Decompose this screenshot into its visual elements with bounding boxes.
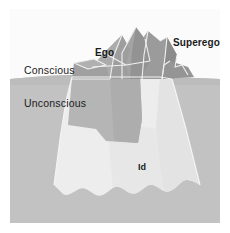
label-unconscious: Unconscious [24, 97, 86, 109]
label-superego: Superego [173, 37, 220, 48]
label-id: Id [138, 162, 146, 172]
label-ego: Ego [95, 47, 114, 58]
label-conscious: Conscious [24, 64, 75, 76]
ego-submerged-block-shade [110, 77, 142, 143]
iceberg-diagram: Conscious Unconscious Ego Superego Id [0, 0, 230, 233]
diagram-panel: Conscious Unconscious Ego Superego Id [10, 9, 220, 223]
